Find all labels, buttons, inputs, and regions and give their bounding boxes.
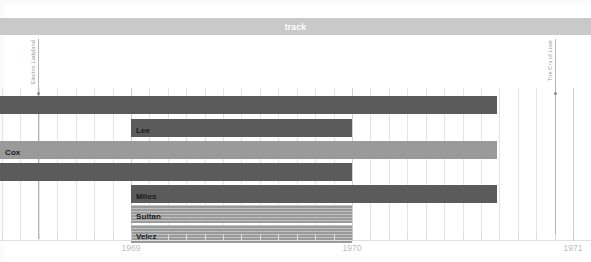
axis-tick [20, 234, 21, 241]
axis-tick [481, 234, 482, 241]
axis-label-year: 1970 [343, 243, 362, 253]
axis-tick [352, 230, 353, 241]
axis-tick [426, 234, 427, 241]
axis-tick [444, 234, 445, 241]
bar-label: Miles [136, 192, 157, 201]
bar-row-miles[interactable]: Miles [131, 185, 497, 203]
axis-tick [223, 234, 224, 241]
axis-tick [186, 234, 187, 241]
axis-tick [113, 234, 114, 241]
bar-row-unlabeled-2[interactable] [0, 163, 352, 181]
axis-tick [407, 234, 408, 241]
bar-row-cox[interactable]: Cox [0, 141, 497, 159]
axis-tick [536, 234, 537, 241]
axis-tick [573, 230, 574, 241]
bar-label: Sultan [136, 212, 161, 221]
axis-tick [297, 234, 298, 241]
axis-tick [39, 234, 40, 241]
axis-tick [518, 234, 519, 241]
bar-label: Velez [136, 232, 157, 241]
axis-tick [76, 234, 77, 241]
axis-tick [57, 234, 58, 241]
axis-tick [499, 234, 500, 241]
timeline-chart: track Electric LadylandThe Cry of Love L… [0, 0, 591, 262]
axis-label-year: 1969 [122, 243, 141, 253]
axis-tick [315, 234, 316, 241]
axis-tick [2, 234, 3, 241]
bar-row-unlabeled-1[interactable] [0, 96, 497, 114]
bar-row-sultan[interactable]: Sultan [131, 205, 352, 223]
axis-tick [168, 234, 169, 241]
axis-tick [241, 234, 242, 241]
bar-rows: LeeCoxMilesSultanVelez [0, 0, 591, 262]
axis-tick [260, 234, 261, 241]
axis-tick [463, 234, 464, 241]
bar-row-lee[interactable]: Lee [131, 119, 352, 137]
axis-tick [555, 234, 556, 241]
axis-label-year: 1971 [564, 243, 583, 253]
axis-tick [278, 234, 279, 241]
bar-label: Cox [5, 148, 20, 157]
x-axis-line [0, 240, 591, 241]
axis-tick [205, 234, 206, 241]
axis-tick [334, 234, 335, 241]
axis-tick [389, 234, 390, 241]
axis-tick [94, 234, 95, 241]
axis-tick [370, 234, 371, 241]
bar-label: Lee [136, 126, 150, 135]
